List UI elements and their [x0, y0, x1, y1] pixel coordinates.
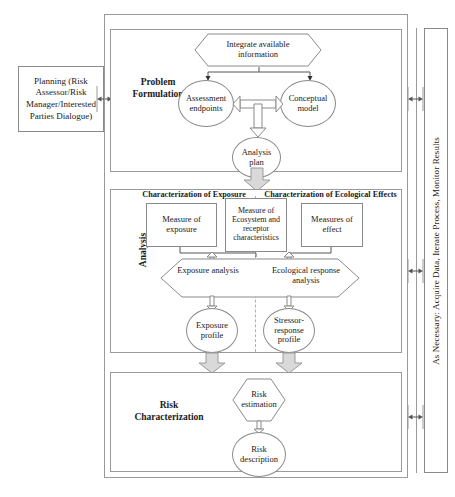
endpoints-model-exchange-arrow — [232, 96, 284, 140]
risk-characterization-title-line1: Risk — [122, 400, 216, 412]
risk-characterization-title: Risk Characterization — [122, 400, 216, 424]
planning-box: Planning (Risk Assessor/Risk Manager/Int… — [18, 66, 104, 132]
risk-estimation-hexagon: Risk estimation — [232, 378, 286, 422]
conceptual-model-oval: Conceptual model — [280, 80, 336, 127]
measure-of-exposure-box: Measure of exposure — [146, 203, 217, 247]
stressor-response-profile-oval: Stressor-response profile — [263, 308, 315, 353]
risk-estimation-label: Risk estimation — [232, 390, 286, 409]
risk-description-oval: Risk description — [232, 432, 286, 477]
stressor-profile-to-risk-arrow — [275, 353, 303, 374]
integrate-available-information-label: Integrate available information — [194, 40, 322, 59]
ecological-response-analysis-label: Ecological response analysis — [258, 266, 354, 286]
planning-label: Planning (Risk Assessor/Risk Manager/Int… — [21, 76, 101, 122]
iterate-side-panel-label: As Necessary: Acquire Data, Iterate Proc… — [431, 137, 441, 365]
risk-characterization-title-line2: Characterization — [122, 412, 216, 424]
problem-formulation-title-line1: Problem — [122, 77, 194, 89]
risk-description-label: Risk description — [235, 445, 283, 464]
measure-of-ecosystem-box: Measure of Ecosystem and receptor charac… — [225, 198, 287, 252]
iterate-side-panel: As Necessary: Acquire Data, Iterate Proc… — [424, 28, 448, 473]
measure-of-ecosystem-label: Measure of Ecosystem and receptor charac… — [228, 207, 284, 243]
exposure-profile-oval: Exposure profile — [186, 308, 238, 353]
analysis-plan-label: Analysis plan — [236, 148, 277, 167]
integrate-available-information-hexagon: Integrate available information — [194, 33, 322, 67]
exposure-profile-to-risk-arrow — [198, 353, 226, 374]
assessment-endpoints-oval: Assessment endpoints — [178, 80, 234, 127]
measures-of-effect-box: Measures of effect — [301, 203, 363, 247]
conceptual-model-label: Conceptual model — [286, 94, 330, 113]
assessment-endpoints-label: Assessment endpoints — [182, 94, 230, 113]
stressor-response-profile-label: Stressor-response profile — [266, 316, 312, 345]
exposure-profile-label: Exposure profile — [190, 321, 234, 340]
integrate-to-endpoints-connector — [205, 67, 313, 81]
exposure-analysis-label: Exposure analysis — [172, 266, 244, 276]
measures-of-effect-label: Measures of effect — [305, 215, 359, 234]
measure-of-exposure-label: Measure of exposure — [150, 215, 213, 234]
